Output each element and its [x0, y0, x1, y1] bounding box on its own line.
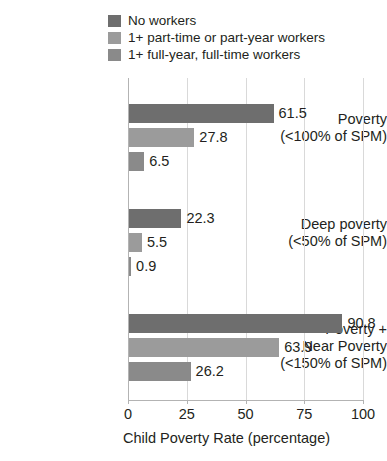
x-axis-tick-label: 75 [296, 405, 312, 423]
legend-swatch-icon [108, 15, 121, 27]
x-axis-title: Child Poverty Rate (percentage) [0, 430, 387, 446]
bar [129, 233, 142, 252]
bar-value-label: 26.2 [196, 362, 224, 381]
plot-area: 61.527.86.522.35.50.990.863.926.2 [128, 78, 363, 400]
legend-item-label: 1+ part-time or part-year workers [128, 31, 325, 45]
bar [129, 152, 144, 171]
bar-value-label: 0.9 [136, 257, 156, 276]
bar [129, 128, 194, 147]
bar [129, 209, 181, 228]
x-axis-tick-label: 25 [179, 405, 195, 423]
bar-value-label: 27.8 [199, 128, 227, 147]
x-axis-tick-mark [128, 400, 129, 404]
x-axis-tick-mark [187, 400, 188, 404]
legend-swatch-icon [108, 49, 121, 61]
bar [129, 257, 131, 276]
x-axis-tick-mark [246, 400, 247, 404]
legend-item-full-time-workers: 1+ full-year, full-time workers [108, 47, 378, 63]
x-axis-tick-label: 0 [124, 405, 132, 423]
bar [129, 314, 342, 333]
bar-value-label: 6.5 [149, 152, 169, 171]
bar-value-label: 5.5 [147, 233, 167, 252]
bar [129, 104, 274, 123]
bar-chart: No workers 1+ part-time or part-year wor… [0, 0, 387, 461]
legend-item-label: 1+ full-year, full-time workers [128, 48, 300, 62]
chart-legend: No workers 1+ part-time or part-year wor… [108, 13, 378, 64]
legend-item-no-workers: No workers [108, 13, 378, 29]
gridline [363, 78, 364, 400]
x-axis-tick-label: 50 [237, 405, 253, 423]
bar-value-label: 90.8 [347, 314, 375, 333]
legend-item-label: No workers [128, 14, 196, 28]
bar [129, 362, 191, 381]
x-axis-tick-label: 100 [351, 405, 375, 423]
legend-item-part-time-workers: 1+ part-time or part-year workers [108, 30, 378, 46]
x-axis-tick-mark [363, 400, 364, 404]
bar-value-label: 22.3 [186, 209, 214, 228]
bar-value-label: 63.9 [284, 338, 312, 357]
x-axis-tick-mark [304, 400, 305, 404]
bar [129, 338, 279, 357]
x-axis-title-text: Child Poverty Rate (percentage) [57, 430, 330, 446]
legend-swatch-icon [108, 32, 121, 44]
bar-value-label: 61.5 [279, 104, 307, 123]
